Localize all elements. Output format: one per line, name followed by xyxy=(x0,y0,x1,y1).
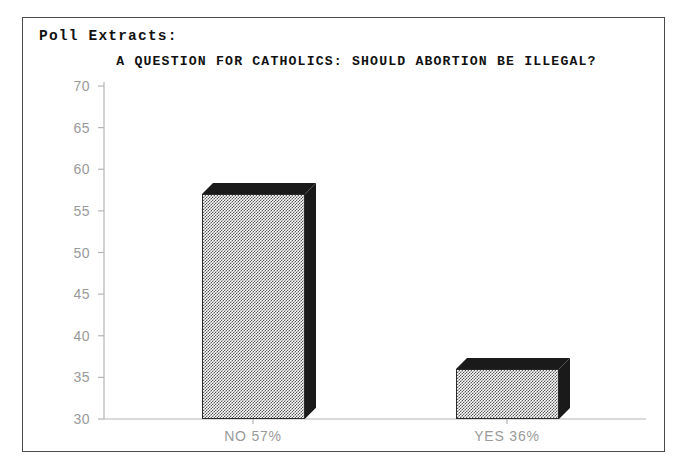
y-axis-tick-label: 65 xyxy=(50,120,90,136)
bar xyxy=(202,183,316,419)
x-axis-tick-label: YES 36% xyxy=(474,428,540,444)
chart-axes xyxy=(23,18,666,453)
y-axis-tick-label: 70 xyxy=(50,78,90,94)
bar-front-face xyxy=(202,194,305,419)
bar-top-face xyxy=(202,183,316,194)
bar-side-face xyxy=(305,183,316,419)
bar-top-face xyxy=(456,358,570,369)
y-axis-tick-label: 40 xyxy=(50,328,90,344)
y-axis-tick-label: 45 xyxy=(50,286,90,302)
bar xyxy=(456,358,570,419)
y-axis-tick-label: 60 xyxy=(50,161,90,177)
y-axis-tick-label: 30 xyxy=(50,411,90,427)
bar-chart-plot-area: 303540455055606570 NO 57%YES 36% xyxy=(23,18,666,453)
y-axis-tick-label: 35 xyxy=(50,369,90,385)
x-axis-tick-label: NO 57% xyxy=(224,428,282,444)
y-axis-tick-label: 55 xyxy=(50,203,90,219)
y-axis-tick-label: 50 xyxy=(50,245,90,261)
bar-front-face xyxy=(456,369,559,419)
poll-extract-frame: Poll Extracts: A QUESTION FOR CATHOLICS:… xyxy=(22,17,665,452)
